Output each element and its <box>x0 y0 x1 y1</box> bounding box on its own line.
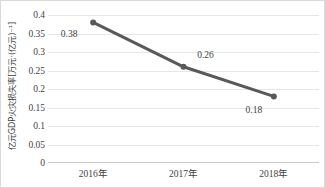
y-tick-label: 0.05 <box>28 140 45 150</box>
series-line <box>93 22 274 96</box>
y-tick-label: 0.4 <box>33 10 45 20</box>
y-tick-label: 0.2 <box>33 84 45 94</box>
y-axis-title-text: 亿元GDP火灾损失率[万元·(亿元)⁻¹] <box>5 22 17 151</box>
y-tick-label: 0.25 <box>28 66 45 76</box>
series-line-and-markers <box>48 15 319 163</box>
plot-area: 0.380.260.18 <box>48 15 319 163</box>
x-tick-label: 2018年 <box>259 166 288 180</box>
x-tick-label: 2016年 <box>79 166 108 180</box>
data-point-label: 0.26 <box>197 50 214 60</box>
y-tick-label: 0.15 <box>28 103 45 113</box>
data-point-label: 0.18 <box>246 105 263 115</box>
line-chart: 亿元GDP火灾损失率[万元·(亿元)⁻¹] 0.40.350.30.250.20… <box>0 0 325 188</box>
y-tick-label: 0.3 <box>33 47 45 57</box>
data-point-marker <box>90 19 96 25</box>
y-tick-label: 0.1 <box>33 121 45 131</box>
data-point-marker <box>271 93 277 99</box>
x-tick-label: 2017年 <box>169 166 198 180</box>
y-tick-label: 0.35 <box>28 29 45 39</box>
data-point-label: 0.38 <box>61 29 78 39</box>
y-axis-tick-labels: 0.40.350.30.250.20.150.10.050 <box>17 15 47 163</box>
data-point-marker <box>181 64 187 70</box>
x-axis-tick-labels: 2016年2017年2018年 <box>48 166 319 186</box>
y-tick-label: 0 <box>40 158 45 168</box>
